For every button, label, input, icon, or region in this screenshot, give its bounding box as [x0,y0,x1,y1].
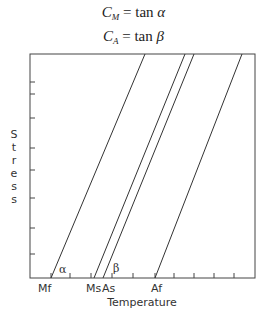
af-label: Af [151,282,163,295]
line-mf [51,54,145,278]
mf-label: Mf [38,282,52,295]
line-af [155,54,242,278]
beta-label: β [113,262,119,275]
y-axis-ticks [30,82,35,254]
svg-text:t: t [12,141,17,154]
line-ms [94,54,185,278]
svg-text:r: r [12,154,17,167]
svg-text:e: e [11,167,18,180]
ms-label: Ms [86,282,101,295]
y-axis-title: S t r e s s [11,128,18,206]
svg-text:s: s [11,193,17,206]
stress-temperature-diagram: α β Mf Ms As Af Temperature S t r e s s [0,0,267,319]
x-axis-title: Temperature [106,296,177,309]
svg-text:s: s [11,180,17,193]
svg-text:S: S [11,128,18,141]
as-label: As [102,282,116,295]
line-as [103,54,194,278]
x-axis-ticks [51,273,234,278]
transformation-lines [51,54,242,278]
alpha-label: α [59,263,67,276]
plot-frame [30,54,255,278]
